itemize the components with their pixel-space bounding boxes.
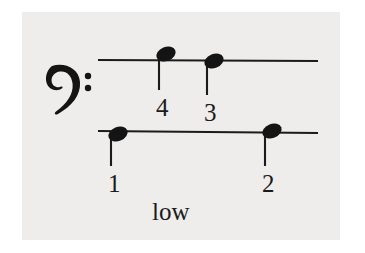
- note-2-head: [260, 121, 284, 141]
- caption-low: low: [152, 199, 190, 224]
- note-3-head: [202, 51, 226, 71]
- bass-clef-icon: [46, 65, 91, 115]
- note-3: [202, 51, 226, 95]
- note-1-head: [106, 124, 130, 144]
- note-label-4: 4: [156, 95, 169, 120]
- note-1: [106, 124, 130, 166]
- note-2: [260, 121, 284, 166]
- note-label-1: 1: [108, 171, 121, 196]
- music-notation-figure: 1 2 3 4 low: [0, 0, 365, 253]
- note-label-3: 3: [204, 100, 217, 125]
- note-label-2: 2: [262, 171, 275, 196]
- lower-ledger-line: [98, 131, 318, 133]
- note-4: [154, 44, 178, 90]
